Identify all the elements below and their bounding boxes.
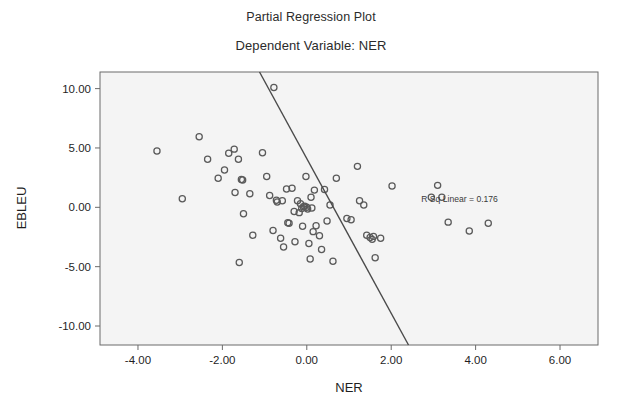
y-tick-label: -5.00 [65, 261, 91, 273]
x-tick-label: 2.00 [380, 354, 402, 366]
x-axis-title: NER [335, 380, 362, 395]
x-tick-label: -2.00 [209, 354, 235, 366]
r-squared-annotation: R Sq Linear = 0.176 [421, 194, 498, 204]
y-tick-label: -10.00 [58, 320, 91, 332]
y-tick-label: 5.00 [69, 142, 91, 154]
x-axis-ticks: -4.00-2.000.002.004.006.00 [125, 345, 571, 366]
partial-regression-figure: Partial Regression Plot Dependent Variab… [0, 0, 622, 406]
x-tick-label: -4.00 [125, 354, 151, 366]
x-tick-label: 4.00 [464, 354, 486, 366]
plot-background [100, 72, 598, 345]
y-axis-ticks: 10.005.000.00-5.00-10.00 [58, 83, 100, 332]
y-tick-label: 0.00 [69, 201, 91, 213]
scatter-plot: -4.00-2.000.002.004.006.00 10.005.000.00… [0, 0, 622, 406]
x-tick-label: 0.00 [296, 354, 318, 366]
y-tick-label: 10.00 [62, 83, 91, 95]
x-tick-label: 6.00 [549, 354, 571, 366]
y-axis-title: EBLEU [14, 187, 29, 230]
